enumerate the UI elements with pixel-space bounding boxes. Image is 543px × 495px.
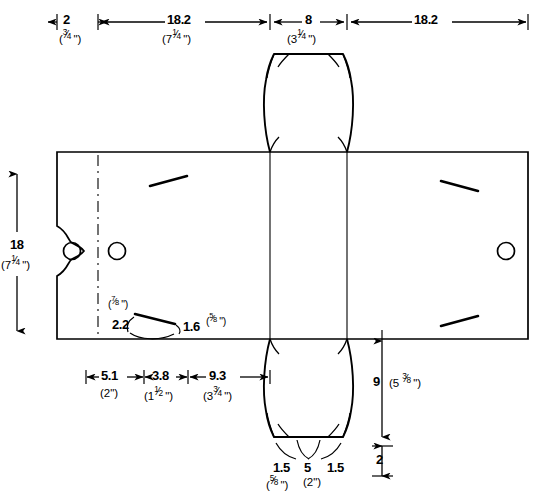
right-dim-tab-value: 2 (376, 453, 383, 466)
slot-width-sub: (7⁄8") (108, 297, 128, 309)
flap-dim-2-sub: (2") (303, 477, 321, 489)
fold-lines (98, 152, 347, 339)
top-flap (264, 54, 353, 152)
slot-leader-right (176, 325, 180, 334)
top-flap-corner-tick-left (267, 54, 274, 78)
top-dim-2-sub: (71⁄4") (162, 31, 191, 45)
bottom-flap-tick-left (278, 424, 289, 437)
top-flap-tick-left (278, 54, 289, 67)
slot-width-value: 2.2 (112, 318, 129, 331)
bottom-flap-outline (264, 339, 353, 437)
bottom-dim-2-sub: (11⁄2") (144, 388, 173, 402)
bottom-flap-corner-tick-right (343, 413, 350, 437)
handle-hole-right (498, 243, 515, 260)
bottom-flap-tick-right (328, 424, 339, 437)
top-flap-outline (264, 54, 353, 152)
slot-height-value: 1.6 (183, 320, 200, 333)
bottom-flap-corner-tick-left (267, 413, 274, 437)
top-dim-3-value: 8 (305, 13, 312, 26)
top-dimension-group (48, 14, 528, 30)
left-dim-value: 18 (10, 238, 24, 251)
carton-outline (57, 152, 528, 339)
drawing-canvas: 2 (3⁄4") 18.2 (71⁄4") 8 (31⁄4") 18.2 18 … (0, 0, 543, 495)
punched-holes (64, 243, 515, 260)
top-flap-tick-right (328, 54, 339, 67)
slot-callout-shape (127, 314, 180, 339)
bottom-dim-1-sub: (2") (100, 388, 118, 400)
bottom-dim-3-value: 9.3 (209, 369, 226, 382)
right-dim-flap-paren: (5 3⁄8") (389, 375, 421, 389)
slot-height-sub: (5⁄8") (206, 314, 226, 326)
diagonal-slits (150, 176, 478, 326)
slit-bottom-right (441, 316, 478, 326)
handle-hole-left (64, 243, 81, 260)
slit-top-right (441, 181, 478, 191)
slot-leader-bottom (130, 333, 174, 339)
right-dim-flap-value: 9 (373, 375, 380, 388)
top-flap-notch-left (270, 137, 279, 152)
top-dim-2-value: 18.2 (167, 13, 191, 26)
body-outline (57, 152, 528, 339)
bottom-dim-1-value: 5.1 (101, 369, 118, 382)
top-dim-1-value: 2 (63, 13, 70, 26)
bottom-flap-notch-right (338, 339, 347, 354)
flap-base-arc-right (321, 443, 341, 459)
flap-dim-1-sub: (5⁄8") (266, 477, 288, 491)
bottom-flap (264, 339, 353, 459)
left-dim-sub: (71⁄4") (1, 257, 30, 271)
flap-base-arc-mid-right (308, 440, 320, 459)
flap-base-arc-left (276, 443, 296, 459)
flap-dim-3-value: 1.5 (327, 461, 344, 474)
top-dim-1-sub: (3⁄4") (59, 31, 81, 45)
flap-dim-1-value: 1.5 (273, 461, 290, 474)
flap-base-arc-mid-left (297, 440, 309, 459)
top-flap-notch-right (338, 137, 347, 152)
slit-top-left (150, 176, 187, 186)
top-dim-4-value: 18.2 (414, 13, 438, 26)
bottom-dim-2-value: 3.8 (152, 369, 169, 382)
flap-dim-2-value: 5 (304, 461, 311, 474)
handle-hole-inner (109, 243, 126, 260)
bottom-dim-3-sub: (33⁄4") (203, 388, 232, 402)
top-dim-3-sub: (31⁄4") (287, 31, 316, 45)
top-flap-corner-tick-right (343, 54, 350, 78)
slot-leader-top (135, 314, 175, 324)
bottom-flap-notch-left (270, 339, 279, 354)
technical-drawing-svg (0, 0, 543, 495)
